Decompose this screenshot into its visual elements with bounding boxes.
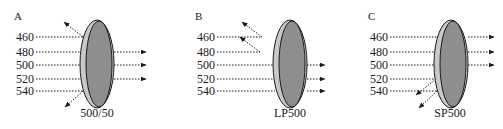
wavelength-label: 540 [16,84,34,98]
reflected-ray-arrow [240,37,260,52]
wavelength-label: 460 [370,30,388,44]
wavelength-label: 540 [370,84,388,98]
wavelength-label: 480 [16,45,34,59]
wavelength-label: 540 [197,84,215,98]
panel-label-a: A [14,10,22,22]
wavelength-label: 480 [197,45,215,59]
optical-filter-diagram: A 460 480 500 520 540 500/50 B 460 480 5… [0,0,503,129]
panel-b: B 460 480 500 520 540 LP500 [195,10,325,120]
wavelength-label: 480 [370,45,388,59]
reflected-ray-arrow [64,22,83,37]
filter-caption-b: LP500 [274,106,306,120]
reflected-ray-arrow [242,22,262,37]
wavelength-label: 500 [197,58,215,72]
filter-face [440,21,466,107]
reflected-ray-arrow [416,79,436,95]
filter-caption-c: SP500 [434,106,465,120]
wavelength-label: 500 [16,58,34,72]
panel-label-b: B [195,10,202,22]
filter-face [279,21,305,107]
wavelength-label: 460 [16,30,34,44]
reflected-ray-arrow [65,91,83,107]
panel-a: A 460 480 500 520 540 500/50 [14,10,146,120]
panel-c: C 460 480 500 520 540 SP500 [368,10,494,120]
panel-label-c: C [368,10,375,22]
wavelength-label: 460 [197,30,215,44]
wavelength-label: 500 [370,58,388,72]
filter-face [86,21,112,107]
filter-caption-a: 500/50 [80,106,113,120]
